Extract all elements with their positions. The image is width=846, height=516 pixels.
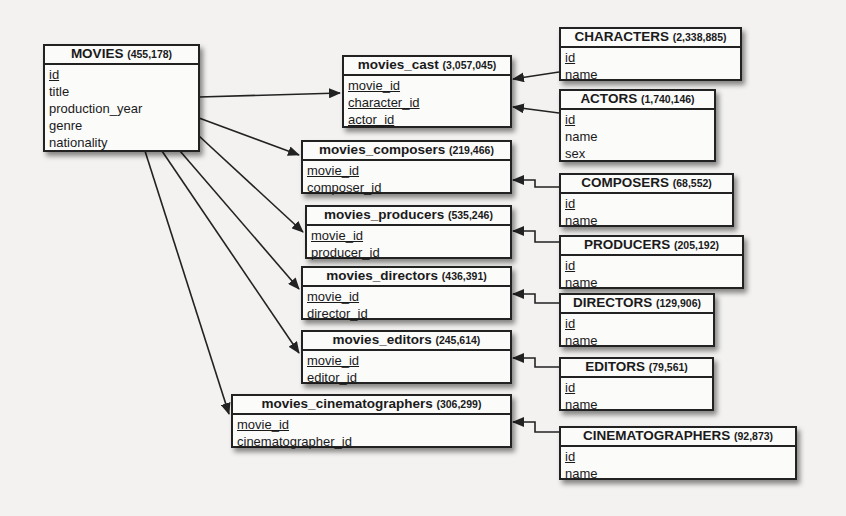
field: id [565, 49, 740, 66]
field: movie_id [307, 288, 510, 305]
table-name: movies_cinematographers [262, 396, 433, 411]
table-header: COMPOSERS (68,552) [561, 175, 732, 194]
table-cinematographers[interactable]: CINEMATOGRAPHERS (92,873) id name [559, 426, 797, 480]
table-name: CINEMATOGRAPHERS [583, 428, 730, 443]
table-movies-directors[interactable]: movies_directors (436,391) movie_id dire… [301, 266, 512, 320]
field: id [565, 315, 713, 332]
table-movies-composers[interactable]: movies_composers (219,466) movie_id comp… [301, 140, 512, 194]
row-count: (79,561) [649, 361, 688, 373]
field: cinematographer_id [237, 433, 510, 450]
table-editors[interactable]: EDITORS (79,561) id name [559, 357, 714, 411]
field: movie_id [237, 416, 510, 433]
field: id [565, 379, 712, 396]
row-count: (455,178) [127, 48, 172, 60]
row-count: (205,192) [674, 239, 719, 251]
table-header: ACTORS (1,740,146) [561, 91, 714, 110]
row-count: (535,246) [448, 209, 493, 221]
editors-to-link-line [513, 358, 559, 367]
field: movie_id [307, 162, 510, 179]
field: production_year [49, 100, 198, 117]
table-header: CINEMATOGRAPHERS (92,873) [561, 428, 795, 447]
table-name: COMPOSERS [581, 175, 669, 190]
field: nationality [49, 134, 198, 151]
table-name: movies_cast [358, 57, 439, 72]
field: movie_id [311, 227, 510, 244]
field: genre [49, 117, 198, 134]
field: name [565, 465, 795, 482]
table-movies-cast[interactable]: movies_cast (3,057,045) movie_id charact… [342, 55, 512, 128]
table-movies[interactable]: MOVIES (455,178) id title production_yea… [43, 44, 200, 152]
table-movies-cinematographers[interactable]: movies_cinematographers (306,299) movie_… [231, 394, 512, 448]
field: movie_id [307, 352, 510, 369]
field: name [565, 396, 712, 413]
producers-to-link-line [513, 231, 559, 242]
movies-to-editors-line [162, 151, 299, 353]
table-actors[interactable]: ACTORS (1,740,146) id name sex [559, 89, 716, 162]
table-name: ACTORS [580, 91, 637, 106]
table-name: movies_composers [319, 142, 445, 157]
characters-to-cast-line [513, 72, 559, 79]
table-name: DIRECTORS [573, 295, 652, 310]
row-count: (219,466) [449, 144, 494, 156]
actors-to-cast-line [513, 107, 559, 113]
row-count: (129,906) [656, 297, 701, 309]
field: name [565, 128, 714, 145]
field: name [565, 212, 732, 229]
table-name: movies_producers [324, 207, 444, 222]
row-count: (2,338,885) [673, 31, 727, 43]
row-count: (68,552) [673, 177, 712, 189]
table-name: MOVIES [71, 46, 124, 61]
table-characters[interactable]: CHARACTERS (2,338,885) id name [559, 27, 742, 81]
movies-to-cinematographers-line [145, 151, 229, 414]
composers-to-link-line [513, 180, 559, 187]
table-header: movies_composers (219,466) [303, 142, 510, 161]
field: name [565, 332, 713, 349]
table-directors[interactable]: DIRECTORS (129,906) id name [559, 293, 715, 347]
field: editor_id [307, 369, 510, 386]
table-composers[interactable]: COMPOSERS (68,552) id name [559, 173, 734, 227]
table-producers[interactable]: PRODUCERS (205,192) id name [559, 235, 744, 289]
field: id [565, 257, 742, 274]
table-header: movies_producers (535,246) [307, 207, 510, 226]
table-header: MOVIES (455,178) [45, 46, 198, 65]
table-header: movies_editors (245,614) [303, 332, 510, 351]
row-count: (245,614) [435, 334, 480, 346]
field: actor_id [348, 111, 510, 128]
field: composer_id [307, 179, 510, 196]
field: id [565, 448, 795, 465]
row-count: (3,057,045) [443, 59, 497, 71]
field: name [565, 66, 740, 83]
cinematographers-to-link-line [513, 422, 559, 432]
field: director_id [307, 305, 510, 322]
field: sex [565, 145, 714, 162]
er-diagram: MOVIES (455,178) id title production_yea… [0, 0, 846, 516]
table-name: EDITORS [585, 359, 645, 374]
directors-to-link-line [513, 294, 559, 303]
table-name: CHARACTERS [575, 29, 670, 44]
row-count: (436,391) [442, 270, 487, 282]
field: movie_id [348, 77, 510, 94]
table-header: movies_directors (436,391) [303, 268, 510, 287]
field: id [565, 195, 732, 212]
movies-to-cast-line [199, 93, 340, 97]
field: character_id [348, 94, 510, 111]
table-header: PRODUCERS (205,192) [561, 237, 742, 256]
table-header: CHARACTERS (2,338,885) [561, 29, 740, 48]
table-header: movies_cast (3,057,045) [344, 57, 510, 76]
field: title [49, 83, 198, 100]
table-name: PRODUCERS [584, 237, 670, 252]
field: id [49, 66, 198, 83]
row-count: (1,740,146) [641, 93, 695, 105]
table-movies-producers[interactable]: movies_producers (535,246) movie_id prod… [305, 205, 512, 259]
row-count: (92,873) [734, 430, 773, 442]
row-count: (306,299) [436, 398, 481, 410]
table-header: movies_cinematographers (306,299) [233, 396, 510, 415]
movies-to-directors-line [180, 151, 299, 289]
table-header: EDITORS (79,561) [561, 359, 712, 378]
table-name: movies_directors [326, 268, 438, 283]
table-name: movies_editors [333, 332, 432, 347]
field: name [565, 274, 742, 291]
table-movies-editors[interactable]: movies_editors (245,614) movie_id editor… [301, 330, 512, 384]
table-header: DIRECTORS (129,906) [561, 295, 713, 314]
field: producer_id [311, 244, 510, 261]
